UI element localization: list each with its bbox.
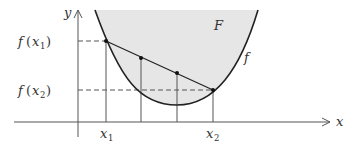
svg-text:1: 1 (108, 133, 113, 143)
svg-text:x: x (32, 83, 40, 98)
svg-text:x: x (206, 126, 214, 141)
curve-label-f: f (243, 50, 251, 65)
x-tick-label-x2: x 2 (206, 126, 219, 143)
x-axis-label: x (336, 114, 344, 129)
svg-text:(: ( (26, 83, 31, 98)
y-tick-label-f-x1: f ( x 1 ) (17, 34, 51, 51)
y-tick-label-f-x2: f ( x 2 ) (17, 83, 51, 100)
svg-text:f: f (17, 83, 25, 98)
convexity-diagram: y x F f f ( x 1 ) f ( x 2 ) x 1 x 2 (0, 0, 354, 149)
svg-text:1: 1 (40, 41, 45, 51)
svg-text:x: x (32, 34, 40, 49)
svg-text:): ) (46, 83, 51, 98)
point-p1 (104, 39, 108, 43)
svg-text:2: 2 (40, 90, 45, 100)
svg-text:x: x (100, 126, 108, 141)
region-label-F: F (213, 18, 224, 33)
x-tick-label-x1: x 1 (100, 126, 113, 143)
point-p2 (211, 88, 215, 92)
svg-text:f: f (17, 34, 25, 49)
svg-text:(: ( (26, 34, 31, 49)
y-axis-label: y (63, 5, 72, 20)
point-q2 (175, 71, 179, 75)
svg-text:2: 2 (214, 133, 219, 143)
point-q1 (139, 56, 143, 60)
svg-text:): ) (46, 34, 51, 49)
